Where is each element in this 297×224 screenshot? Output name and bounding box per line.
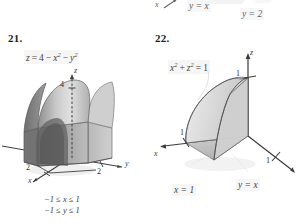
eq21-lhs: z <box>26 53 30 63</box>
figure22-x-arrowhead <box>160 144 166 149</box>
exercise-22-graphic <box>152 48 297 183</box>
exercise-21-constraints: −1 ≤ x ≤ 1 −1 ≤ y ≤ 1 <box>44 194 80 215</box>
top-cut-surface-remnant <box>206 0 246 4</box>
exercise-21-equation-label: z=4−x2−y2 <box>24 50 79 64</box>
textbook-figure-page: x y = x y = 2 21. z=4−x2−y2 <box>0 0 297 224</box>
figure21-column-right-face <box>88 122 112 163</box>
figure22-y-tick-label: 1 <box>266 156 270 165</box>
figure21-y-axis-label: y <box>125 159 129 168</box>
figure22-z-tick-1 <box>244 76 256 78</box>
top-cut-surface-remnant-2 <box>254 0 274 3</box>
eq21-term3-exponent: 2 <box>74 51 77 58</box>
exercise-22-label-x-equals-1: x = 1 <box>172 184 196 196</box>
exercise-21-constraint-x: −1 ≤ x ≤ 1 <box>44 194 80 205</box>
exercise-21-graphic <box>0 66 140 186</box>
eq21-term2-exponent: 2 <box>57 51 60 58</box>
figure21-x-axis-label: x <box>28 176 32 185</box>
exercise-22-figure: z 1 x 1 y 1 <box>152 48 297 183</box>
eq21-term1: 4 <box>39 53 44 63</box>
exercise-22-number: 22. <box>155 32 169 44</box>
exercise-21-number: 21. <box>8 32 22 44</box>
top-cut-label-y-equals-2: y = 2 <box>240 8 264 20</box>
figure22-x-tick-label: 1 <box>180 128 184 137</box>
top-cut-x-axis-label: x <box>155 0 159 9</box>
top-cut-figure: x y = x y = 2 <box>150 0 297 24</box>
top-cut-label-y-equals-x: y = x <box>187 0 211 12</box>
exercise-21-constraint-y: −1 ≤ y ≤ 1 <box>44 205 80 216</box>
figure22-z-axis-label: z <box>250 48 253 57</box>
figure21-z-tick-label: 4 <box>60 80 64 89</box>
eq21-minus1: − <box>46 53 51 63</box>
top-cut-figure-graphic <box>150 0 297 24</box>
figure21-dome-right-lobe <box>88 82 114 128</box>
figure21-x-tick-label: 2 <box>26 163 30 172</box>
figure21-z-axis-label: z <box>74 66 77 75</box>
figure22-y-arrowhead <box>290 167 295 173</box>
figure21-column-left-face <box>24 128 38 166</box>
figure21-y-tick-label: 2 <box>97 167 101 176</box>
figure22-z-tick-label: 1 <box>236 69 240 78</box>
eq21-minus2: − <box>63 53 68 63</box>
figure21-x-arrowhead <box>33 178 38 182</box>
figure22-x-axis-label: x <box>154 149 158 158</box>
eq21-equals: = <box>32 53 37 63</box>
exercise-21-figure: z 4 y 2 x 2 <box>0 66 140 186</box>
exercise-22-label-y-equals-x: y = x <box>236 179 260 191</box>
